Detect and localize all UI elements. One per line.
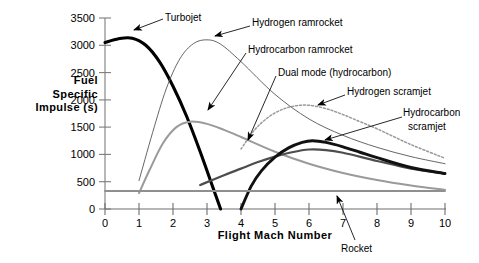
- tick-labels: 0500100015002000250030003500012345678910: [71, 12, 452, 229]
- leader-hydrogen-ramrocket: [215, 26, 250, 36]
- leader-hydrocarbon-ramrocket: [208, 53, 246, 110]
- y-tick-label: 2000: [71, 94, 95, 106]
- y-tick-label: 500: [77, 176, 95, 188]
- x-tick-label: 3: [204, 217, 210, 229]
- leader-hydrogen-scramjet: [318, 95, 345, 105]
- y-tick-label: 1500: [71, 121, 95, 133]
- x-tick-label: 10: [439, 217, 451, 229]
- leader-dual-mode: [248, 76, 276, 140]
- x-tick-label: 1: [136, 217, 142, 229]
- x-tick-label: 2: [170, 217, 176, 229]
- y-tick-label: 2500: [71, 67, 95, 79]
- leader-turbojet: [134, 19, 163, 30]
- data-curves: [105, 38, 445, 209]
- x-tick-label: 6: [306, 217, 312, 229]
- x-tick-label: 4: [238, 217, 244, 229]
- x-tick-label: 8: [374, 217, 380, 229]
- y-tick-label: 0: [89, 203, 95, 215]
- y-tick-label: 3000: [71, 39, 95, 51]
- x-tick-label: 7: [340, 217, 346, 229]
- axis-lines: [105, 18, 446, 209]
- leader-hydrocarbon-scramjet: [325, 117, 402, 140]
- y-tick-label: 3500: [71, 12, 95, 24]
- chart-plot: 0500100015002000250030003500012345678910: [0, 0, 479, 263]
- x-tick-label: 0: [102, 217, 108, 229]
- x-tick-label: 9: [408, 217, 414, 229]
- series-hydrocarbon-ramrocket: [139, 122, 445, 194]
- y-tick-label: 1000: [71, 148, 95, 160]
- x-tick-label: 5: [272, 217, 278, 229]
